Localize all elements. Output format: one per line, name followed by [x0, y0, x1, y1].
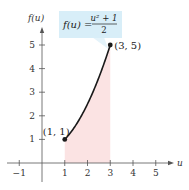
y-tick-label: 2 [29, 111, 35, 121]
x-tick-label: 1 [62, 168, 68, 178]
equation-lhs: f(u) = [62, 19, 93, 30]
endpoint-marker [108, 43, 113, 48]
point-label: (3, 5) [114, 40, 141, 51]
y-axis-arrow-icon [40, 27, 44, 33]
y-tick-label: 1 [29, 134, 35, 144]
equation-numerator: u² + 1 [91, 13, 118, 23]
x-axis-label: u [177, 158, 183, 168]
y-tick-label: 3 [29, 87, 35, 97]
y-tick-label: 4 [29, 64, 35, 74]
x-axis-arrow-icon [168, 161, 174, 165]
x-tick-label: 2 [85, 168, 91, 178]
callout-pointer [92, 37, 108, 49]
x-tick-label: −1 [13, 168, 26, 178]
equation-callout: f(u) = u² + 1 2 [59, 11, 122, 49]
x-tick-label: 3 [107, 168, 113, 178]
endpoint-marker [62, 137, 67, 142]
x-tick-label: 5 [153, 168, 159, 178]
y-axis-label: f(u) [27, 13, 45, 23]
point-label: (1, 1) [43, 126, 70, 137]
y-tick-label: 5 [29, 40, 35, 50]
chart: f(u) = u² + 1 2 −11234512345 (1, 1)(3, 5… [0, 0, 189, 190]
x-tick-label: 4 [130, 168, 136, 178]
equation-denominator: 2 [101, 25, 106, 35]
